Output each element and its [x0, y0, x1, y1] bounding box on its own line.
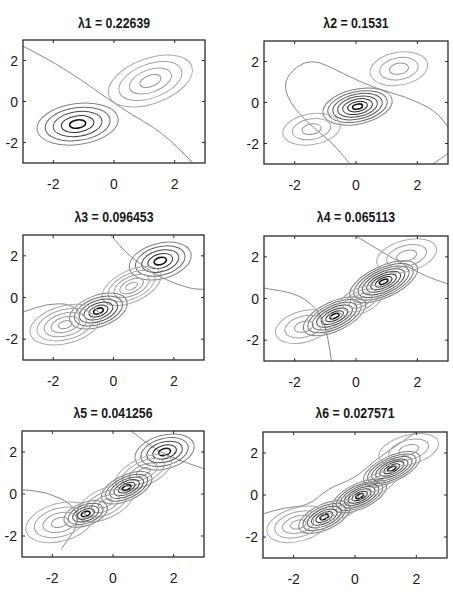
y-tick-label: -2: [246, 529, 259, 545]
contour-plot: -20220-2: [0, 0, 453, 597]
x-tick-label: 2: [412, 571, 420, 587]
x-tick-label: -2: [287, 571, 300, 587]
x-tick-label: 0: [351, 571, 359, 587]
y-tick-label: 2: [250, 445, 258, 461]
contour-level: [375, 428, 442, 472]
contour-level: [332, 476, 386, 517]
contour-level: [398, 442, 420, 457]
contour-lines: [263, 428, 442, 549]
y-tick-label: 0: [250, 487, 258, 503]
